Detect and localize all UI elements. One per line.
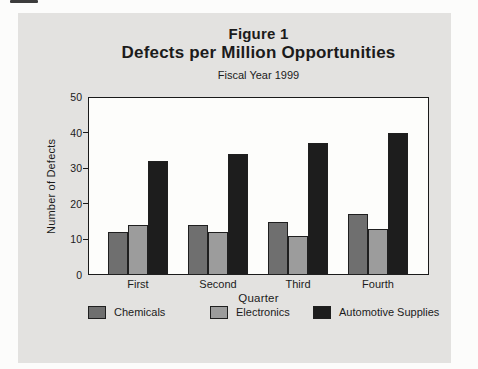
legend-swatch-chemicals — [88, 306, 106, 319]
y-axis-tick-mark — [83, 203, 88, 204]
y-axis-tick-mark — [83, 239, 88, 240]
legend-entry-chemicals: Chemicals — [88, 306, 165, 319]
bar-chemicals-fourth — [348, 214, 368, 275]
legend-label-electronics: Electronics — [236, 306, 290, 319]
legend-label-automotive-supplies: Automotive Supplies — [339, 306, 439, 319]
bar-electronics-third — [288, 236, 308, 275]
y-axis-tick-label-40: 40 — [58, 126, 82, 140]
bar-automotive-supplies-fourth — [388, 133, 408, 275]
legend-label-chemicals: Chemicals — [114, 306, 165, 319]
legend-entry-automotive-supplies: Automotive Supplies — [313, 306, 439, 319]
figure-number: Figure 1 — [88, 24, 429, 43]
y-axis-tick-label-10: 10 — [58, 232, 82, 246]
y-axis-tick-label-50: 50 — [58, 90, 82, 104]
x-axis-tick-label-second: Second — [178, 278, 258, 291]
bar-chemicals-first — [108, 232, 128, 275]
bar-electronics-first — [128, 225, 148, 275]
y-axis-tick-mark — [83, 168, 88, 169]
y-axis-tick-label-30: 30 — [58, 161, 82, 175]
bar-automotive-supplies-second — [228, 154, 248, 275]
x-axis-tick-label-fourth: Fourth — [338, 278, 418, 291]
x-axis-tick-label-first: First — [98, 278, 178, 291]
y-axis-tick-label-0: 0 — [58, 268, 82, 282]
bar-chart: Figure 1 Defects per Million Opportuniti… — [0, 0, 478, 369]
bar-electronics-second — [208, 232, 228, 275]
legend-swatch-automotive-supplies — [313, 306, 331, 319]
legend-swatch-electronics — [210, 306, 228, 319]
bar-automotive-supplies-first — [148, 161, 168, 275]
legend-entry-electronics: Electronics — [210, 306, 290, 319]
y-axis-tick-mark — [83, 132, 88, 133]
chart-subtitle: Fiscal Year 1999 — [88, 69, 429, 82]
chart-header: Figure 1 Defects per Million Opportuniti… — [88, 24, 429, 82]
bar-automotive-supplies-third — [308, 143, 328, 275]
x-axis-tick-label-third: Third — [258, 278, 338, 291]
x-axis-title: Quarter — [88, 292, 429, 305]
y-axis-title: Number of Defects — [43, 97, 59, 275]
bar-electronics-fourth — [368, 229, 388, 275]
bar-chemicals-third — [268, 222, 288, 275]
bar-chemicals-second — [188, 225, 208, 275]
chart-title: Defects per Million Opportunities — [88, 43, 429, 63]
y-axis-tick-label-20: 20 — [58, 197, 82, 211]
